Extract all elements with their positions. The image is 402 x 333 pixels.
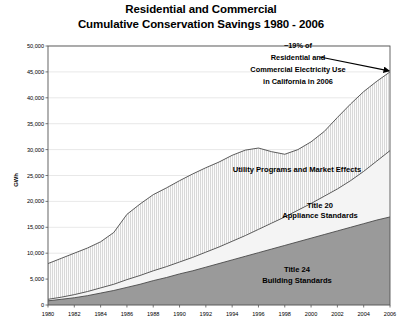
x-tick-label: 2004 (357, 311, 369, 317)
x-tick-label: 1980 (42, 311, 54, 317)
x-tick-label: 1994 (226, 311, 238, 317)
x-tick-label: 1984 (94, 311, 106, 317)
y-tick-label: 50,000 (27, 43, 44, 49)
y-tick-label: 20,000 (27, 198, 44, 204)
y-axis-tick-labels: 05,00010,00015,00020,00025,00030,00035,0… (27, 43, 48, 308)
y-tick-label: 40,000 (27, 95, 44, 101)
x-tick-label: 1986 (121, 311, 133, 317)
annotation-leader-line (320, 57, 389, 71)
x-tick-label: 1992 (200, 311, 212, 317)
y-tick-label: 45,000 (27, 69, 44, 75)
y-tick-label: 30,000 (27, 147, 44, 153)
y-tick-label: 10,000 (27, 250, 44, 256)
y-tick-label: 15,000 (27, 224, 44, 230)
x-tick-label: 1988 (147, 311, 159, 317)
x-tick-label: 2000 (305, 311, 317, 317)
x-axis-tick-labels: 1980198219841986198819901992199419961998… (42, 305, 396, 317)
y-tick-label: 25,000 (27, 173, 44, 179)
y-tick-label: 5,000 (30, 276, 44, 282)
x-tick-label: 1996 (252, 311, 264, 317)
conservation-savings-chart: Residential and Commercial Cumulative Co… (0, 0, 402, 333)
x-tick-label: 1998 (279, 311, 291, 317)
x-tick-label: 2006 (384, 311, 396, 317)
chart-svg: 05,00010,00015,00020,00025,00030,00035,0… (0, 0, 402, 333)
x-tick-label: 1982 (68, 311, 80, 317)
y-tick-label: 0 (41, 302, 44, 308)
x-tick-label: 1990 (173, 311, 185, 317)
x-tick-label: 2002 (331, 311, 343, 317)
stacked-areas (48, 72, 390, 305)
y-tick-label: 35,000 (27, 121, 44, 127)
